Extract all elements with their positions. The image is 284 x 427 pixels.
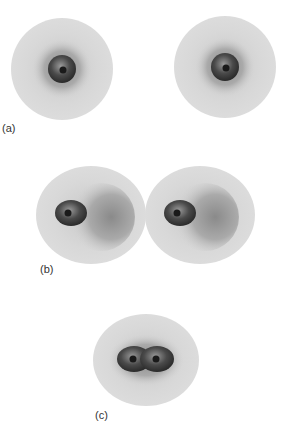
atom-b-right: [145, 165, 255, 265]
atom-a-left: [10, 17, 114, 121]
atom-b-left: [36, 165, 146, 265]
panel-label-a: (a): [2, 122, 15, 134]
panel-label-c: (c): [95, 409, 108, 421]
atom-a-right: [173, 15, 277, 119]
panel-label-b: (b): [40, 263, 53, 275]
molecule-c: [93, 313, 199, 407]
